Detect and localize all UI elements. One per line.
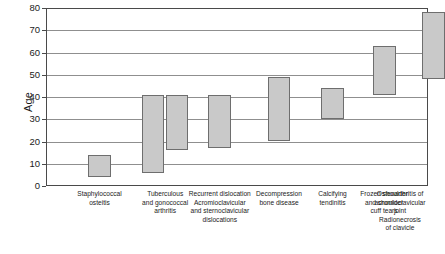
bar [88,155,111,177]
y-tick-label: 80 [14,3,40,13]
x-category-label-line: Staphylococcal [67,190,131,199]
y-tick-label: 70 [14,25,40,35]
y-tick-label: 20 [14,137,40,147]
bar [166,95,189,151]
x-category-label: Staphylococcalosteitis [67,190,131,207]
x-category-label-line: joint [368,207,432,216]
x-category-label-line: and sternoclavicular [188,207,252,216]
x-category-label-line: Acromioclavicular [188,199,252,208]
x-axis-category-labels: StaphylococcalosteitisTuberculousand gon… [46,190,428,252]
x-category-label-line: Radionecrosis [368,216,432,225]
bar-series [46,8,428,186]
y-tick-label: 40 [14,92,40,102]
x-category-label-line: of clavicle [368,224,432,233]
bar [268,77,291,142]
bar [142,95,165,173]
y-tick-label: 30 [14,114,40,124]
x-category-label-line: dislocations [188,216,252,225]
bar [208,95,231,148]
x-category-label: Osteoarthritis ofacromioclavicularjointR… [368,190,432,233]
y-tick-label: 50 [14,70,40,80]
y-tick-mark [42,186,46,187]
x-category-label-line: acromioclavicular [368,199,432,208]
y-tick-label: 60 [14,48,40,58]
y-tick-label: 0 [14,181,40,191]
x-category-label-line: osteitis [67,199,131,208]
bar [321,88,344,119]
bar [422,12,445,79]
bar [373,46,396,95]
y-tick-label: 10 [14,159,40,169]
x-category-label-line: Recurrent dislocation [188,190,252,199]
x-category-label: Recurrent dislocationAcromioclavicularan… [188,190,252,224]
x-category-label-line: Osteoarthritis of [368,190,432,199]
